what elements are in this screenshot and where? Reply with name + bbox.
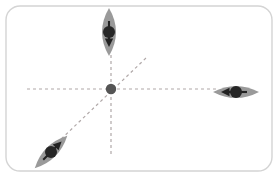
figure-container xyxy=(0,0,278,177)
vector-diagram xyxy=(0,0,278,177)
origin-point xyxy=(106,84,116,94)
top-marker-dot xyxy=(103,26,115,38)
right-marker-dot xyxy=(230,86,242,98)
